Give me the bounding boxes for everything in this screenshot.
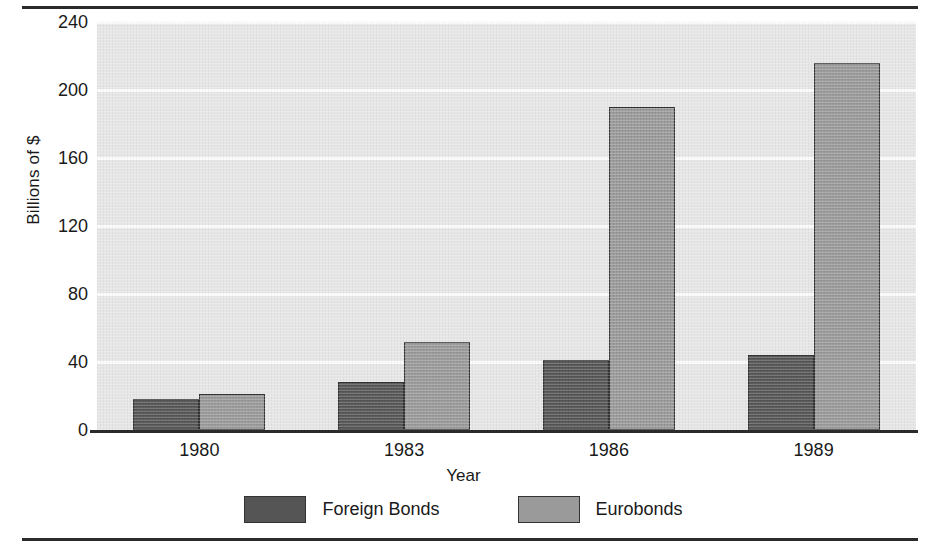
x-axis-title: Year <box>0 466 927 486</box>
legend-swatch-icon <box>244 496 306 523</box>
legend-item-foreign-bonds: Foreign Bonds <box>244 496 439 523</box>
bar-1986-eurobonds <box>609 107 675 430</box>
bar-1989-eurobonds <box>814 63 880 430</box>
gridline <box>97 21 916 24</box>
x-tick-label-1980: 1980 <box>139 440 259 461</box>
bar-1986-foreign-bonds <box>543 360 609 430</box>
x-tick-label-1989: 1989 <box>754 440 874 461</box>
y-tick-label: 160 <box>4 148 88 169</box>
gridline <box>97 225 916 228</box>
y-tick-label: 120 <box>4 216 88 237</box>
gridline <box>97 89 916 92</box>
legend-label: Foreign Bonds <box>322 499 439 520</box>
gridline <box>97 157 916 160</box>
bar-1980-eurobonds <box>199 394 265 430</box>
chart-legend: Foreign BondsEurobonds <box>0 496 927 523</box>
y-tick-label: 0 <box>4 420 88 441</box>
x-tick-label-1983: 1983 <box>344 440 464 461</box>
gridline <box>97 293 916 296</box>
y-tick-label: 240 <box>4 12 88 33</box>
x-axis-line <box>90 430 918 433</box>
bar-1983-foreign-bonds <box>338 382 404 430</box>
legend-label: Eurobonds <box>596 499 683 520</box>
y-tick-label: 200 <box>4 80 88 101</box>
bottom-divider-rule <box>22 538 918 541</box>
bar-1989-foreign-bonds <box>748 355 814 430</box>
bar-1980-foreign-bonds <box>133 399 199 430</box>
plot-area <box>97 22 916 430</box>
y-tick-label: 40 <box>4 352 88 373</box>
legend-item-eurobonds: Eurobonds <box>518 496 683 523</box>
bar-chart-figure: Billions of $ 04080120160200240 19801983… <box>0 0 927 548</box>
bar-1983-eurobonds <box>404 342 470 430</box>
x-tick-label-1986: 1986 <box>549 440 669 461</box>
top-divider-rule <box>22 6 918 9</box>
legend-swatch-icon <box>518 496 580 523</box>
y-tick-label: 80 <box>4 284 88 305</box>
